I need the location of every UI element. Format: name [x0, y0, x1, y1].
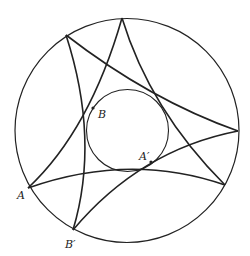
- label-B: B: [97, 108, 106, 121]
- arc-upperleft-to-right: [66, 35, 238, 131]
- label-B-prime: B′: [64, 238, 76, 251]
- outer-circle: [15, 19, 239, 243]
- arc-top-to-lowerright: [122, 18, 225, 185]
- label-A-prime: A′: [138, 150, 150, 163]
- geodesic-arcs: [28, 18, 238, 230]
- arc-upperleft-to-Bprime: [66, 35, 85, 230]
- point-B: [91, 106, 94, 109]
- hyperbolic-disk-diagram: ABA′B′: [0, 0, 250, 256]
- inner-circle: [87, 90, 169, 172]
- arc-top-to-A: [28, 18, 122, 188]
- label-A: A: [16, 189, 25, 202]
- point-A-prime: [149, 160, 152, 163]
